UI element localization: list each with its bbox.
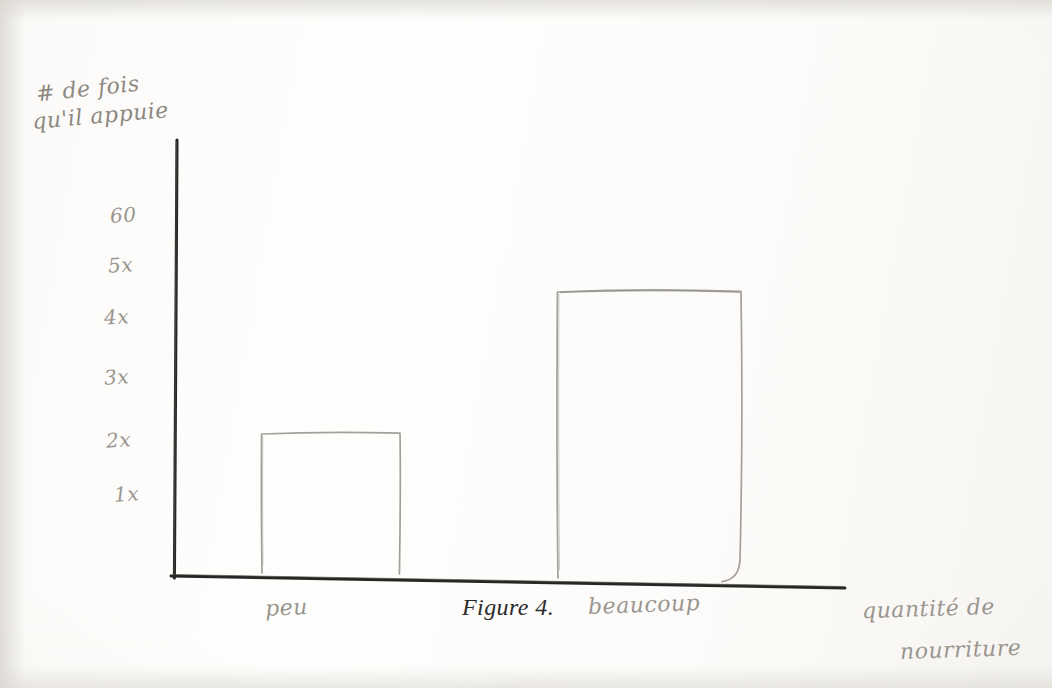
y-tick-label-50: 5x (107, 252, 134, 278)
y-tick-label-30: 3x (103, 364, 130, 390)
x-category-label-peu: peu (264, 594, 308, 621)
figure-page: # de fois qu'il appuie 60 5x 4x 3x 2x 1x… (0, 0, 1052, 688)
x-axis-title-line-1: quantité de (862, 594, 996, 624)
x-axis (171, 575, 845, 589)
bar-beaucoup (557, 290, 742, 582)
y-tick-label-10: 1x (113, 481, 140, 507)
bar-peu (261, 432, 400, 574)
x-axis-title-line-2: nourriture (900, 635, 1022, 664)
y-tick-label-40: 4x (103, 304, 130, 330)
figure-caption: Figure 4. (462, 594, 554, 621)
y-tick-label-60: 60 (109, 202, 137, 228)
x-category-label-beaucoup: beaucoup (588, 590, 701, 619)
y-axis (174, 140, 177, 578)
y-tick-label-20: 2x (105, 427, 132, 453)
